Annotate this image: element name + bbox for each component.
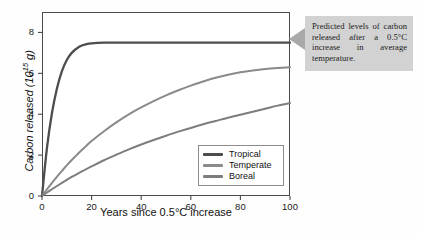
callout-arrow-icon xyxy=(289,28,305,50)
legend-swatch-icon xyxy=(203,153,223,156)
legend-item-temperate: Temperate xyxy=(203,160,279,171)
callout-box: Predicted levels of carbon released afte… xyxy=(305,16,413,71)
legend-swatch-icon xyxy=(203,175,223,178)
legend-label: Boreal xyxy=(229,171,255,182)
legend-item-boreal: Boreal xyxy=(203,171,279,182)
chart-legend: TropicalTemperateBoreal xyxy=(198,145,284,186)
figure-container: 02468 020406080100 Carbon released (1015… xyxy=(0,0,421,234)
callout-text: Predicted levels of carbon released afte… xyxy=(312,21,407,63)
y-axis-title-tail: g) xyxy=(23,50,35,63)
y-axis-title-main: Carbon released (10 xyxy=(23,71,35,171)
y-axis-title: Carbon released (1015 g) xyxy=(21,26,35,196)
y-axis-title-exponent: 15 xyxy=(21,63,30,71)
x-axis-title: Years since 0.5°C increase xyxy=(42,206,290,218)
legend-item-tropical: Tropical xyxy=(203,149,279,160)
legend-swatch-icon xyxy=(203,164,223,167)
legend-label: Temperate xyxy=(229,160,272,171)
legend-label: Tropical xyxy=(229,149,261,160)
